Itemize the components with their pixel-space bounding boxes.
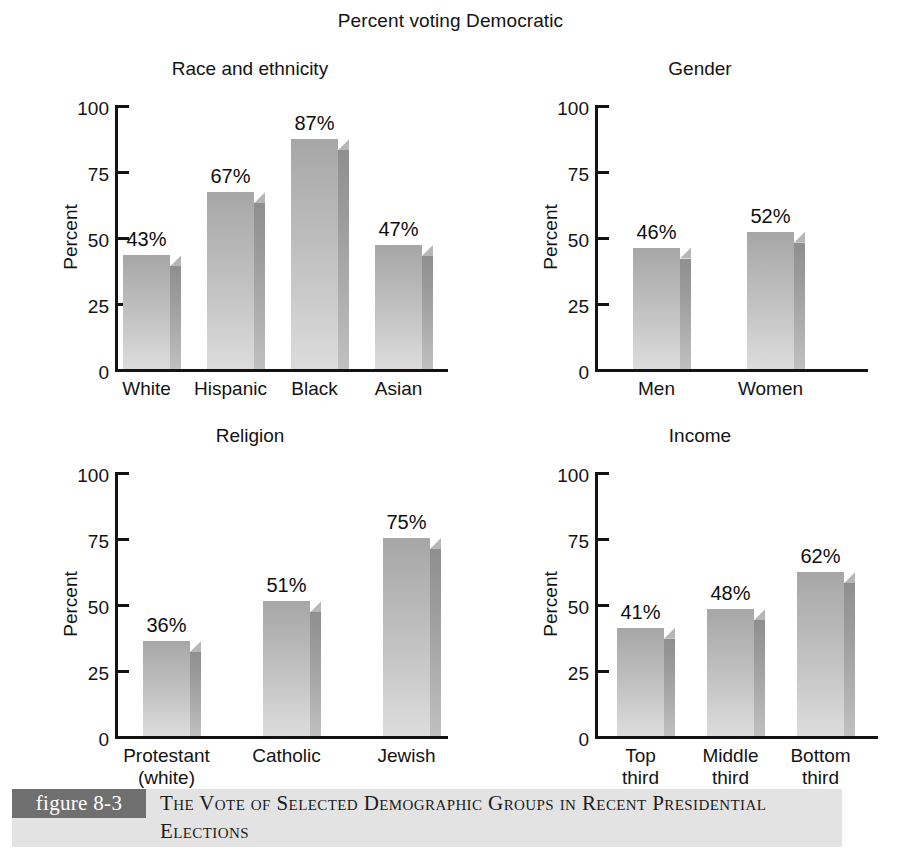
bar: 46%Men (633, 248, 680, 369)
y-axis-tick-label: 0 (578, 730, 589, 749)
chart-title: Gender (500, 58, 900, 80)
plot-area: 100755025046%Men52%Women (595, 105, 865, 369)
y-axis-tick-label: 100 (557, 466, 589, 485)
y-axis-tick: 75 (118, 171, 129, 174)
bar-value-label: 51% (266, 574, 306, 597)
bar: 47%Asian (375, 245, 422, 369)
y-axis-tick-label: 50 (88, 598, 109, 617)
x-axis-category-label: Topthird (622, 745, 659, 790)
y-axis-tick: 25 (598, 303, 609, 306)
plot-area: 100755025041%Topthird48%Middlethird62%Bo… (595, 472, 875, 736)
y-axis-label: Percent (539, 571, 561, 636)
bar-front-face (383, 538, 430, 736)
bar: 67%Hispanic (207, 192, 254, 369)
chart-title: Religion (40, 425, 460, 447)
bar: 48%Middlethird (707, 609, 754, 736)
y-axis-tick-label: 100 (77, 99, 109, 118)
y-axis-tick-label: 50 (568, 231, 589, 250)
bar-front-face (633, 248, 680, 369)
x-axis-category-label: Women (738, 378, 803, 400)
chart-title: Income (500, 425, 900, 447)
chart-panel-gender: GenderPercent100755025046%Men52%Women (500, 58, 900, 408)
y-axis-tick-label: 0 (98, 730, 109, 749)
x-axis-category-label: Middlethird (703, 745, 759, 790)
bar-side-face (310, 612, 321, 736)
y-axis-tick: 100 (598, 105, 609, 108)
y-axis-tick-label: 75 (88, 165, 109, 184)
y-axis-tick: 100 (118, 105, 129, 108)
x-axis-category-label: Hispanic (194, 378, 267, 400)
bar: 51%Catholic (263, 601, 310, 736)
bar: 43%White (123, 255, 170, 369)
y-axis-tick: 75 (598, 538, 609, 541)
x-axis-category-label: White (122, 378, 171, 400)
y-axis-label: Percent (59, 571, 81, 636)
bar-value-label: 41% (620, 601, 660, 624)
x-axis-category-label: Black (291, 378, 337, 400)
figure-number-tag: figure 8-3 (12, 789, 146, 818)
bar-value-label: 62% (800, 545, 840, 568)
bar-side-face (794, 243, 805, 369)
bar-side-face (430, 549, 441, 736)
bar-value-label: 36% (146, 614, 186, 637)
figure-caption: figure 8-3 The Vote of Selected Demograp… (12, 789, 842, 847)
y-axis-tick-label: 50 (88, 231, 109, 250)
x-axis-category-label: Protestant(white) (123, 745, 210, 790)
bar-front-face (143, 641, 190, 736)
bar-front-face (123, 255, 170, 369)
x-axis-category-label: Asian (375, 378, 423, 400)
bar-side-face (422, 256, 433, 369)
bar-value-label: 75% (386, 511, 426, 534)
bar-side-face (170, 266, 181, 369)
bar: 62%Bottomthird (797, 572, 844, 736)
bar: 41%Topthird (617, 628, 664, 736)
bar-side-face (190, 652, 201, 736)
y-axis-tick-label: 25 (568, 297, 589, 316)
y-axis-tick: 25 (118, 670, 129, 673)
y-axis-tick-label: 0 (98, 363, 109, 382)
plot-area: 100755025043%White67%Hispanic87%Black47%… (115, 105, 445, 369)
y-axis-tick-label: 75 (88, 532, 109, 551)
y-axis-tick: 50 (598, 237, 609, 240)
bar-value-label: 47% (378, 218, 418, 241)
bar-value-label: 43% (126, 228, 166, 251)
y-axis-label: Percent (59, 204, 81, 269)
bar-side-face (844, 583, 855, 736)
x-axis-category-label: Jewish (377, 745, 435, 767)
bar-value-label: 87% (294, 112, 334, 135)
y-axis-tick: 0 (118, 369, 129, 372)
y-axis-tick: 50 (118, 604, 129, 607)
y-axis-tick-label: 25 (88, 297, 109, 316)
chart-panel-race-and-ethnicity: Race and ethnicityPercent100755025043%Wh… (40, 58, 460, 408)
figure-container: Percent voting Democratic Race and ethni… (0, 0, 901, 856)
bar-front-face (263, 601, 310, 736)
y-axis-tick-label: 25 (88, 664, 109, 683)
bar-value-label: 52% (750, 205, 790, 228)
y-axis-tick-label: 25 (568, 664, 589, 683)
y-axis-tick: 25 (598, 670, 609, 673)
bar-value-label: 46% (636, 221, 676, 244)
y-axis-tick-label: 50 (568, 598, 589, 617)
y-axis-tick: 75 (598, 171, 609, 174)
y-axis-tick: 0 (598, 369, 609, 372)
bar-side-face (754, 620, 765, 736)
figure-title: Percent voting Democratic (0, 10, 901, 32)
y-axis-tick-label: 100 (557, 99, 589, 118)
y-axis-tick-label: 75 (568, 532, 589, 551)
bar-front-face (797, 572, 844, 736)
chart-panel-income: IncomePercent100755025041%Topthird48%Mid… (500, 425, 900, 785)
bar-side-face (254, 203, 265, 369)
figure-caption-text: The Vote of Selected Demographic Groups … (160, 790, 834, 845)
bar-front-face (747, 232, 794, 369)
x-axis-category-label: Catholic (252, 745, 321, 767)
y-axis-tick-label: 100 (77, 466, 109, 485)
bar: 52%Women (747, 232, 794, 369)
bar-front-face (617, 628, 664, 736)
y-axis-tick: 50 (598, 604, 609, 607)
bar: 75%Jewish (383, 538, 430, 736)
y-axis-tick: 75 (118, 538, 129, 541)
y-axis-tick: 100 (598, 472, 609, 475)
bar: 87%Black (291, 139, 338, 369)
y-axis-tick: 0 (118, 736, 129, 739)
x-axis-category-label: Bottomthird (790, 745, 850, 790)
